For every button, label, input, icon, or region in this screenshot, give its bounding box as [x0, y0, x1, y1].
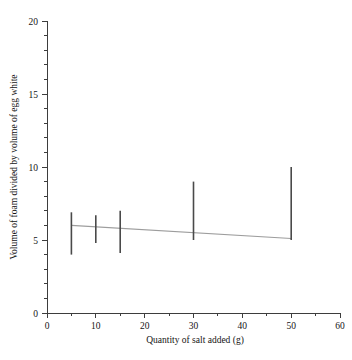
chart-page: 0 5 10 15 20 0 10 20 30 40 50 60 Quantit…: [0, 0, 352, 360]
y-tick-label-5: 5: [33, 236, 38, 246]
y-tick-label-10: 10: [29, 163, 39, 173]
y-tick-label-0: 0: [33, 309, 38, 319]
x-axis-title: Quantity of salt added (g): [146, 335, 244, 346]
scatter-plot: 0 5 10 15 20 0 10 20 30 40 50 60 Quantit…: [0, 0, 352, 360]
x-tick-label-60: 60: [335, 321, 345, 331]
x-tick-label-50: 50: [286, 321, 296, 331]
y-axis-title: Volume of foam divided by volume of egg …: [9, 74, 19, 259]
x-tick-label-20: 20: [140, 321, 150, 331]
x-tick-label-40: 40: [238, 321, 248, 331]
y-tick-label-20: 20: [29, 17, 39, 27]
x-tick-label-0: 0: [45, 321, 50, 331]
y-tick-label-15: 15: [29, 90, 39, 100]
x-tick-label-30: 30: [189, 321, 199, 331]
plot-background: [0, 0, 352, 360]
x-tick-label-10: 10: [91, 321, 101, 331]
